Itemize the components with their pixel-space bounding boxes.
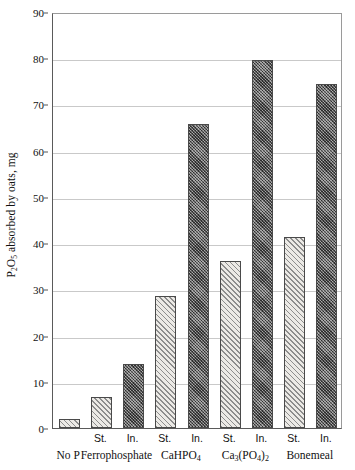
y-tick-label: 20 — [33, 331, 44, 343]
y-axis-ticks: 0102030405060708090 — [20, 0, 48, 440]
bar-bonemeal-in — [316, 84, 337, 428]
y-tick-mark — [44, 429, 48, 430]
bar-no-p-st — [59, 419, 80, 428]
bar-ca3-po4-2-st — [220, 261, 241, 428]
y-tick-mark — [44, 382, 48, 383]
y-tick-mark — [44, 197, 48, 198]
y-tick-label: 40 — [33, 238, 44, 250]
y-tick-mark — [44, 244, 48, 245]
x-sublabel: In. — [127, 432, 139, 444]
y-tick-label: 70 — [33, 99, 44, 111]
x-group-label: Ferrophosphate — [81, 449, 153, 461]
y-tick-mark — [44, 151, 48, 152]
x-sublabel: St. — [158, 432, 171, 444]
y-tick-label: 10 — [33, 377, 44, 389]
y-tick-label: 30 — [33, 284, 44, 296]
x-sublabel: In. — [256, 432, 268, 444]
y-axis-title-text: P2O5 absorbed by oats, mg — [5, 152, 19, 277]
bar-ca3-po4-2-in — [252, 60, 273, 428]
x-group-label: Bonemeal — [286, 449, 333, 461]
x-sublabel: St. — [287, 432, 300, 444]
y-tick-mark — [44, 290, 48, 291]
x-axis-labels: St.In.St.In.St.In.St.In.No PFerrophospha… — [52, 429, 342, 470]
plot-area — [52, 13, 342, 429]
bar-chart: P2O5 absorbed by oats, mg 01020304050607… — [0, 0, 355, 470]
y-axis-title: P2O5 absorbed by oats, mg — [2, 0, 22, 430]
bar-bonemeal-st — [284, 237, 305, 428]
x-group-label: CaHPO4 — [161, 449, 201, 463]
x-sublabel: St. — [223, 432, 236, 444]
y-tick-mark — [44, 105, 48, 106]
bar-cahpo4-in — [188, 124, 209, 428]
x-sublabel: In. — [191, 432, 203, 444]
y-tick-mark — [44, 336, 48, 337]
y-tick-label: 60 — [33, 146, 44, 158]
bars-layer — [53, 14, 341, 428]
x-sublabel: St. — [94, 432, 107, 444]
y-tick-mark — [44, 59, 48, 60]
y-tick-label: 80 — [33, 53, 44, 65]
y-tick-label: 50 — [33, 192, 44, 204]
bar-ferrophosphate-st — [91, 397, 112, 428]
bar-cahpo4-st — [155, 296, 176, 428]
x-group-label: No P — [56, 449, 79, 461]
bar-ferrophosphate-in — [123, 364, 144, 428]
y-tick-mark — [44, 13, 48, 14]
y-tick-label: 90 — [33, 7, 44, 19]
x-sublabel: In. — [320, 432, 332, 444]
x-group-label: Ca3(PO4)2 — [222, 449, 269, 463]
